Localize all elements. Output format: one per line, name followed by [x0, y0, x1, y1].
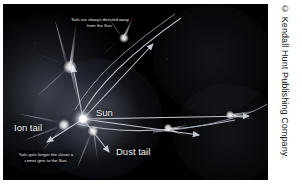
comet-mid-right: [164, 124, 192, 138]
figure-root: Tails are always directed away from the …: [0, 0, 302, 184]
copyright-text: © Kendall Hunt Publishing Company.: [280, 4, 290, 158]
illustration-plate: Tails are always directed away from the …: [3, 4, 268, 180]
label-ion-tail: Ion tail: [14, 123, 42, 133]
sun-body: [70, 106, 96, 132]
comet-dust-tail: [77, 126, 99, 171]
label-dust-tail: Dust tail: [116, 147, 150, 157]
arrow-to-upper-comet: [83, 44, 153, 119]
label-sun: Sun: [96, 108, 113, 118]
annotation-tails-away-from-sun: Tails are always directed away from the …: [69, 17, 131, 29]
annotation-tails-longer-near-sun: Tails gets longer the closer a comet get…: [15, 152, 77, 164]
copyright-credit: © Kendall Hunt Publishing Company.: [272, 4, 298, 180]
comet-near-top: [33, 18, 81, 114]
